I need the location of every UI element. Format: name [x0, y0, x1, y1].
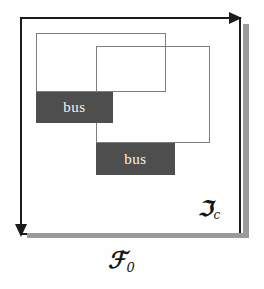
- frame-shadow-right: [243, 24, 249, 237]
- frame-shadow-bottom: [27, 233, 249, 238]
- fraktur-i-glyph: ℑ: [198, 196, 213, 221]
- canvas-subscript: c: [214, 208, 221, 222]
- detection-box-2: [96, 46, 210, 143]
- class-label-bus-2: bus: [96, 143, 175, 175]
- frame-subscript: 0: [127, 260, 135, 275]
- canvas-symbol-label: ℑc: [198, 198, 220, 221]
- horizontal-axis-arrowhead-icon: [229, 12, 242, 24]
- class-label-text: bus: [63, 99, 85, 116]
- class-label-bus-1: bus: [36, 92, 113, 123]
- script-f-glyph: ℱ: [108, 246, 126, 273]
- detection-diagram: bus bus ℑc ℱ0: [0, 0, 264, 289]
- class-label-text: bus: [124, 151, 146, 168]
- vertical-axis-shaft: [20, 17, 22, 229]
- frame-symbol-label: ℱ0: [108, 248, 135, 274]
- vertical-axis-arrowhead-icon: [15, 224, 27, 237]
- horizontal-axis-shaft: [20, 17, 235, 19]
